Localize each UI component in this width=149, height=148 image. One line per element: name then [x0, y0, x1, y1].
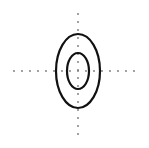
axis-dot — [77, 93, 79, 95]
diagram-canvas — [0, 0, 149, 148]
axis-dot — [77, 45, 79, 47]
axis-dot — [101, 70, 103, 72]
axis-dot — [77, 101, 79, 103]
horizontal-dotted-axis — [13, 70, 135, 72]
axis-dot — [53, 70, 55, 72]
axis-dot — [117, 70, 119, 72]
axis-dot — [77, 133, 79, 135]
axis-dot — [77, 77, 79, 79]
axis-dot — [77, 37, 79, 39]
axis-dot — [125, 70, 127, 72]
axis-dot — [77, 21, 79, 23]
axis-dot — [21, 70, 23, 72]
axis-dot — [69, 70, 71, 72]
axis-dot — [77, 69, 79, 71]
axis-dot — [109, 70, 111, 72]
axis-dot — [77, 85, 79, 87]
axis-dot — [13, 70, 15, 72]
axis-dot — [61, 70, 63, 72]
vertical-dotted-axis — [77, 13, 79, 135]
axis-dot — [45, 70, 47, 72]
axis-dot — [93, 70, 95, 72]
axis-dot — [77, 117, 79, 119]
axis-dot — [29, 70, 31, 72]
axis-dot — [77, 29, 79, 31]
axis-dot — [77, 125, 79, 127]
axis-dot — [77, 109, 79, 111]
axis-dot — [37, 70, 39, 72]
axis-dot — [85, 70, 87, 72]
axis-dot — [77, 61, 79, 63]
axis-dot — [77, 13, 79, 15]
axis-dot — [133, 70, 135, 72]
